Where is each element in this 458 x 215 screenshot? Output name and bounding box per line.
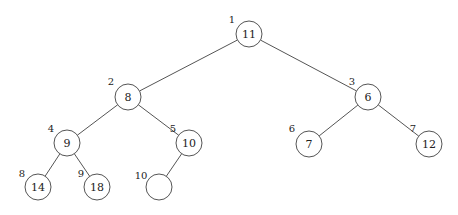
tree-edge — [319, 105, 358, 136]
tree-nodes: 1118263941057612714818910 — [19, 14, 442, 201]
node-index-label: 6 — [289, 123, 295, 134]
node-value: 8 — [125, 91, 132, 104]
tree-node: 82 — [108, 76, 141, 111]
node-value: 11 — [242, 28, 256, 41]
heap-tree-diagram: 1118263941057612714818910 — [0, 0, 458, 215]
node-index-label: 9 — [78, 168, 84, 179]
node-index-label: 8 — [19, 168, 25, 179]
tree-edge — [77, 105, 117, 135]
node-index-label: 10 — [135, 170, 148, 181]
node-value: 18 — [90, 181, 104, 194]
tree-edge — [166, 154, 181, 177]
tree-node: 105 — [170, 123, 202, 157]
tree-node: 189 — [78, 168, 110, 201]
tree-node: 63 — [349, 76, 381, 111]
node-index-label: 5 — [170, 123, 176, 134]
tree-node: 127 — [410, 123, 442, 158]
tree-edge — [140, 40, 238, 91]
tree-node: 148 — [19, 168, 51, 201]
node-circle — [146, 174, 172, 200]
node-index-label: 7 — [410, 123, 416, 134]
tree-edge — [45, 154, 60, 176]
node-index-label: 1 — [229, 14, 235, 25]
tree-edge — [260, 40, 356, 91]
node-index-label: 4 — [48, 123, 54, 134]
tree-node: 94 — [48, 123, 80, 157]
node-value: 6 — [365, 91, 372, 104]
tree-node: 76 — [289, 123, 322, 158]
node-value: 12 — [422, 138, 436, 151]
node-index-label: 3 — [349, 76, 355, 87]
node-value: 14 — [31, 181, 45, 194]
node-value: 7 — [306, 138, 313, 151]
tree-node: 10 — [135, 170, 172, 201]
node-index-label: 2 — [108, 76, 114, 87]
node-value: 10 — [182, 137, 196, 150]
node-value: 9 — [64, 137, 71, 150]
